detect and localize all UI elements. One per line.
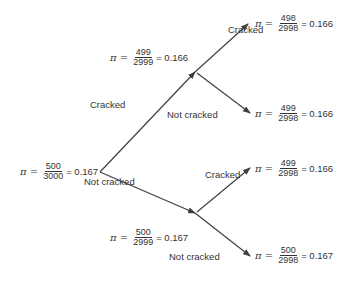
edge-label-n-cracked: Cracked <box>205 169 240 180</box>
fraction: 4992999 <box>132 48 154 67</box>
leaf-not-cracked-not-cracked: π = 5002998 = 0.167 <box>255 246 333 265</box>
fraction: 5002998 <box>277 246 299 265</box>
edge-label-c-not-cracked: Not cracked <box>167 109 218 120</box>
edge-label-c-cracked: Cracked <box>228 24 263 35</box>
node-cracked: π = 4992999 = 0.166 <box>110 48 188 67</box>
edge-n-not-cracked <box>195 213 250 256</box>
fraction: 4992998 <box>277 159 299 178</box>
edge-label-root-not-cracked: Not cracked <box>84 176 135 187</box>
leaf-cracked-cracked: π = 4982998 = 0.166 <box>255 14 333 33</box>
edge-c-not-cracked <box>197 73 250 113</box>
edge-root-cracked <box>100 72 195 172</box>
fraction: 4982998 <box>277 14 299 33</box>
leaf-cracked-not-cracked: π = 4992998 = 0.166 <box>255 104 333 123</box>
node-not-cracked: π = 5002999 = 0.167 <box>110 228 188 247</box>
fraction: 5002999 <box>132 228 154 247</box>
fraction: 4992998 <box>277 104 299 123</box>
edge-label-n-not-cracked: Not cracked <box>169 251 220 262</box>
edge-label-root-cracked: Cracked <box>90 99 125 110</box>
fraction: 5003000 <box>42 162 64 181</box>
leaf-not-cracked-cracked: π = 4992998 = 0.166 <box>255 159 333 178</box>
